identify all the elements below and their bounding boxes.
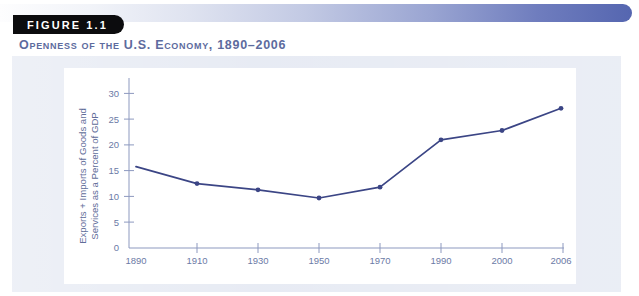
y-tick-label-5: 5 bbox=[114, 217, 119, 228]
figure-title: Openness of the U.S. Economy, 1890–2006 bbox=[19, 38, 286, 52]
data-point-1950 bbox=[317, 196, 322, 201]
y-tick-15: 15 bbox=[108, 165, 134, 176]
figure-number-label: FIGURE 1.1 bbox=[27, 19, 108, 31]
x-tick-label-1930: 1930 bbox=[247, 255, 268, 266]
y-tick-25: 25 bbox=[108, 114, 134, 125]
y-tick-label-30: 30 bbox=[108, 88, 119, 99]
y-axis-ticks: 30 25 20 15 10 bbox=[108, 88, 134, 253]
x-tick-label-1950: 1950 bbox=[308, 255, 329, 266]
data-line-series bbox=[136, 108, 561, 198]
y-axis-label-line2: Services as a Percent of GDP bbox=[89, 112, 100, 239]
x-tick-label-2006: 2006 bbox=[550, 255, 571, 266]
x-tick-1950: 1950 bbox=[308, 243, 329, 266]
x-tick-label-1910: 1910 bbox=[186, 255, 207, 266]
x-axis-ticks: 1890 1910 1930 1950 1970 bbox=[125, 243, 571, 266]
x-tick-label-1890: 1890 bbox=[125, 255, 146, 266]
y-tick-20: 20 bbox=[108, 139, 134, 150]
y-tick-label-15: 15 bbox=[108, 165, 119, 176]
line-chart: Exports + Imports of Goods and Services … bbox=[64, 68, 576, 284]
x-tick-1890: 1890 bbox=[125, 255, 146, 266]
y-tick-label-20: 20 bbox=[108, 139, 119, 150]
y-tick-0: 0 bbox=[114, 242, 119, 253]
y-axis-label: Exports + Imports of Goods and Services … bbox=[77, 108, 100, 244]
y-tick-5: 5 bbox=[114, 217, 134, 228]
x-tick-2006: 2006 bbox=[550, 243, 571, 266]
data-point-1990 bbox=[439, 137, 444, 142]
chart-svg: Exports + Imports of Goods and Services … bbox=[64, 68, 576, 284]
data-point-1970 bbox=[378, 185, 383, 190]
data-point-markers bbox=[195, 106, 564, 201]
data-point-2000 bbox=[500, 128, 505, 133]
y-tick-30: 30 bbox=[108, 88, 134, 99]
x-tick-label-1970: 1970 bbox=[369, 255, 390, 266]
x-tick-1910: 1910 bbox=[186, 243, 207, 266]
figure-number-badge: FIGURE 1.1 bbox=[13, 15, 124, 34]
x-tick-1930: 1930 bbox=[247, 243, 268, 266]
data-point-1930 bbox=[256, 187, 261, 192]
y-tick-label-0: 0 bbox=[114, 242, 119, 253]
data-point-1910 bbox=[195, 181, 200, 186]
chart-card: Exports + Imports of Goods and Services … bbox=[64, 68, 576, 284]
data-point-2006 bbox=[559, 106, 564, 111]
y-tick-label-25: 25 bbox=[108, 114, 119, 125]
y-tick-label-10: 10 bbox=[108, 191, 119, 202]
y-tick-10: 10 bbox=[108, 191, 134, 202]
x-tick-2000: 2000 bbox=[491, 243, 512, 266]
x-tick-1990: 1990 bbox=[430, 243, 451, 266]
y-axis-label-line1: Exports + Imports of Goods and bbox=[77, 108, 88, 244]
x-tick-1970: 1970 bbox=[369, 243, 390, 266]
x-tick-label-2000: 2000 bbox=[491, 255, 512, 266]
x-tick-label-1990: 1990 bbox=[430, 255, 451, 266]
